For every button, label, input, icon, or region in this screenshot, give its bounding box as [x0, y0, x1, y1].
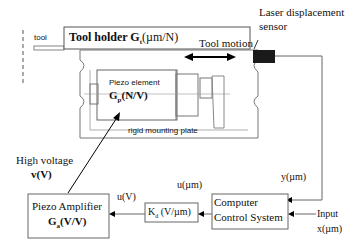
- computer-label-2: Control System: [214, 212, 283, 223]
- tool-motion-label: Tool motion: [199, 38, 253, 49]
- input-label-2: x(µm): [317, 224, 342, 234]
- tool-holder-label: Tool holder Gt(µm/N): [69, 31, 178, 46]
- computer-label-1: Computer: [214, 197, 258, 208]
- piezo-element-gain: Gp(N/V): [109, 90, 148, 104]
- u-um-label: u(µm): [177, 180, 202, 190]
- laser-sensor-label-2: sensor: [259, 21, 287, 32]
- y-label: y(µm): [281, 172, 306, 182]
- u-volt-label: u(V): [117, 192, 136, 202]
- tool-label: tool: [34, 34, 47, 42]
- amp-gain-unit: (V/V): [60, 215, 86, 227]
- input-label-1: Input: [317, 209, 338, 219]
- tool-holder-unit: (µm/N): [142, 30, 178, 44]
- mounting-plate-label: rigid mounting plate: [128, 127, 198, 135]
- high-voltage-label: High voltage: [16, 155, 73, 166]
- piezo-gain-text: G: [109, 89, 118, 101]
- kd-gain-unit: (V/µm): [158, 206, 191, 217]
- tool-holder-text: Tool holder G: [69, 30, 140, 44]
- high-voltage-symbol: v(V): [31, 169, 52, 180]
- laser-sensor-label-1: Laser displacement: [259, 7, 344, 18]
- piezo-amplifier-label: Piezo Amplifier: [32, 201, 102, 212]
- piezo-amplifier-gain: Ga(V/V): [48, 216, 86, 230]
- kd-block-label: Kd (V/µm): [148, 207, 191, 219]
- laser-sensor-block: [253, 50, 275, 63]
- piezo-element-label: Piezo element: [109, 79, 160, 87]
- amp-gain-text: G: [48, 215, 57, 227]
- piezo-gain-unit: (N/V): [121, 89, 147, 101]
